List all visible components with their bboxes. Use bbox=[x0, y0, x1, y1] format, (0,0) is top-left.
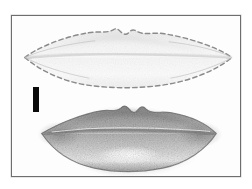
scale-bar bbox=[33, 87, 39, 112]
plate-frame bbox=[11, 15, 241, 177]
upper-lips-outline-group bbox=[25, 29, 232, 88]
lower-lips-highlight bbox=[97, 146, 160, 164]
lips-illustration-canvas bbox=[12, 16, 240, 176]
lower-lips-shaded-group bbox=[38, 106, 222, 173]
figure-caption bbox=[0, 0, 1, 1]
figure-root bbox=[0, 0, 252, 189]
